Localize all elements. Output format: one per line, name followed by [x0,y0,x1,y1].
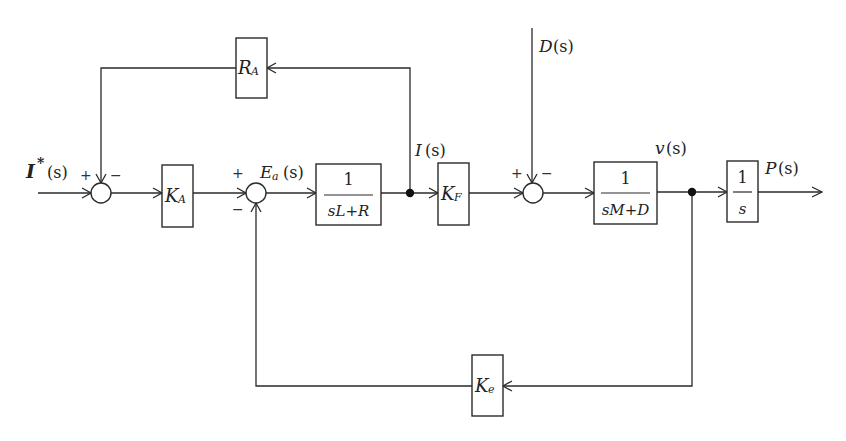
summing-junction-3 [523,183,543,203]
label-velocity: v (s) [655,138,687,158]
block-integrator: 1 s [727,161,758,222]
mechanical-numerator: 1 [620,169,630,188]
block-diagram: K A 1 sL+R K F 1 sM+D 1 s R A K e I * ( [0,0,846,441]
sum2-minus-sign: − [232,201,244,217]
integrator-denominator: s [739,200,747,218]
velocity-arg: (s) [666,139,687,158]
label-input: I * (s) [25,155,68,182]
ra-symbol: R [237,57,252,78]
sum2-plus-sign: + [232,165,244,181]
label-disturbance: D (s) [538,36,574,56]
current-symbol: I [414,140,422,160]
label-current: I (s) [414,140,446,160]
pickoff-point-current [406,189,414,197]
output-arg: (s) [778,159,799,178]
error-arg: (s) [283,163,304,182]
sum3-minus-sign: − [541,165,553,181]
block-ra: R A [236,38,267,98]
current-arg: (s) [425,141,446,160]
wire-ke-to-sum2 [256,203,472,386]
sum1-plus-sign: + [80,167,92,183]
block-electrical-plant: 1 sL+R [316,164,381,225]
electrical-denominator: sL+R [328,202,370,220]
input-symbol: I [25,160,36,182]
label-error: E a (s) [259,162,304,183]
ke-subscript: e [488,383,495,396]
electrical-numerator: 1 [343,170,353,189]
integrator-numerator: 1 [737,168,747,187]
forward-path [38,187,822,198]
disturbance-arg: (s) [553,37,574,56]
label-output: P (s) [764,158,799,178]
input-superscript: * [37,155,45,171]
velocity-symbol: v [655,138,665,158]
ka-subscript: A [177,193,186,206]
pickoff-point-velocity [688,188,696,196]
error-symbol: E [259,162,273,182]
block-ka: K A [162,165,193,227]
block-kf: K F [438,163,469,225]
sum1-minus-sign: − [110,167,122,183]
block-mechanical-plant: 1 sM+D [594,162,657,224]
input-arg: (s) [47,163,68,182]
disturbance-symbol: D [538,36,553,56]
summing-junction-1 [91,183,111,203]
summing-junction-2 [246,183,266,203]
mechanical-denominator: sM+D [602,201,650,219]
disturbance-input [527,28,537,183]
error-subscript: a [272,170,279,183]
output-symbol: P [764,158,777,178]
block-ke: K e [472,355,503,416]
kf-subscript: F [453,191,462,204]
sum3-plus-sign: + [511,165,523,181]
ra-subscript: A [250,65,259,78]
